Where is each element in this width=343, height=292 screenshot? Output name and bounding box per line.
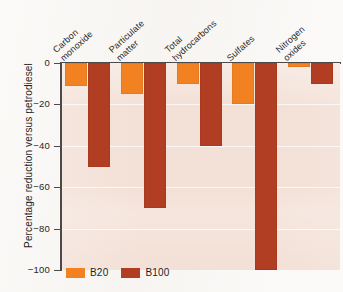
y-axis-tick-label: −100 [28,264,50,275]
legend-label-b20: B20 [90,267,108,278]
bar-b100-particulate-matter[interactable] [144,63,166,208]
y-axis-tick [54,104,60,105]
x-axis-label-line1: Sulfates [225,33,256,63]
legend-swatch-b100 [121,268,140,278]
chart-legend: B20B100 [66,267,170,278]
bar-b20-sulfates[interactable] [232,63,254,104]
y-axis-tick [54,187,60,188]
x-axis-label-nitrogen-oxides: Nitrogenoxides [274,24,314,63]
gridline [62,229,340,230]
bar-edge [88,63,110,167]
bar-edge [288,63,310,67]
y-axis-tick-label: 0 [45,57,50,68]
bar-b20-particulate-matter[interactable] [121,63,143,94]
x-axis-label-carbon-monoxide: Carbonmonoxide [51,21,95,63]
x-axis-label-total-hydrocarbons: Totalhydrocarbons [162,10,217,63]
bar-edge [232,63,254,104]
bar-b20-nitrogen-oxides[interactable] [288,63,310,67]
bar-b100-carbon-monoxide[interactable] [88,63,110,167]
bar-edge [177,63,199,84]
legend-swatch-b20 [66,268,85,278]
x-axis-label-sulfates: Sulfates [225,33,257,63]
y-axis-tick-label: −20 [33,98,50,109]
y-axis-tick-label: −80 [33,223,50,234]
plot-area [62,63,340,270]
bar-edge [121,63,143,94]
y-axis-tick [54,270,60,271]
x-axis-category-labels: CarbonmonoxideParticulatematterTotalhydr… [62,0,340,63]
y-axis-tick [54,63,60,64]
legend-item-b100[interactable]: B100 [121,267,169,278]
legend-item-b20[interactable]: B20 [66,267,108,278]
bar-b20-total-hydrocarbons[interactable] [177,63,199,84]
bar-edge [200,63,222,146]
y-axis-tick [54,146,60,147]
bar-edge [65,63,87,86]
bar-b100-total-hydrocarbons[interactable] [200,63,222,146]
y-axis-title: Percentage reduction versus petrodiesel [23,56,34,256]
y-axis-tick-label: −60 [33,181,50,192]
y-axis-tick [54,229,60,230]
bar-b100-nitrogen-oxides[interactable] [311,63,333,84]
legend-label-b100: B100 [145,267,169,278]
bar-edge [311,63,333,84]
bar-edge [255,63,277,270]
bar-edge [144,63,166,208]
gridline [62,187,340,188]
y-axis-tick-label: −40 [33,140,50,151]
bar-chart-figure: Percentage reduction versus petrodiesel … [0,0,343,292]
x-axis-label-particulate-matter: Particulatematter [107,18,153,63]
bar-b20-carbon-monoxide[interactable] [65,63,87,86]
bar-b100-sulfates[interactable] [255,63,277,270]
